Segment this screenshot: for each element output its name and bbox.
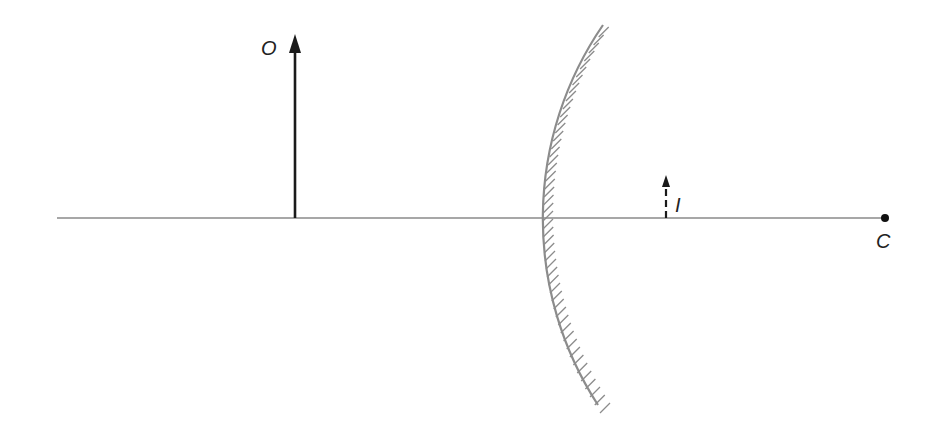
hatch-mark xyxy=(546,259,556,269)
mirror-hatching xyxy=(543,27,610,413)
object-arrow xyxy=(289,34,301,218)
hatch-mark xyxy=(544,235,554,245)
hatch-mark xyxy=(543,219,553,229)
hatch-mark xyxy=(600,403,610,413)
optics-diagram: O I C xyxy=(0,0,936,425)
center-of-curvature-point xyxy=(881,214,889,222)
image-label: I xyxy=(675,194,681,216)
hatch-mark xyxy=(545,251,555,261)
concave-mirror xyxy=(543,25,603,405)
object-label: O xyxy=(261,37,277,59)
arrowhead-icon xyxy=(289,34,301,53)
image-arrow xyxy=(662,175,670,218)
hatch-mark xyxy=(543,227,553,237)
hatch-mark xyxy=(544,243,554,253)
arrowhead-icon xyxy=(662,175,670,187)
center-of-curvature-label: C xyxy=(876,230,891,252)
